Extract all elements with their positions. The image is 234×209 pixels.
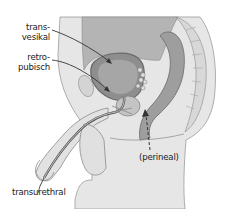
label-transurethral: transurethral xyxy=(12,187,66,197)
label-transvesikal-line1: trans- xyxy=(14,22,50,32)
label-retropubisch-line1: retro- xyxy=(14,52,50,62)
label-transvesikal-line2: vesikal xyxy=(14,32,50,42)
label-perineal: (perineal) xyxy=(139,152,179,162)
label-retropubisch: retro- pubisch xyxy=(14,52,50,72)
label-retropubisch-line2: pubisch xyxy=(14,62,50,72)
prostate xyxy=(116,96,140,116)
label-transvesikal: trans- vesikal xyxy=(14,22,50,42)
